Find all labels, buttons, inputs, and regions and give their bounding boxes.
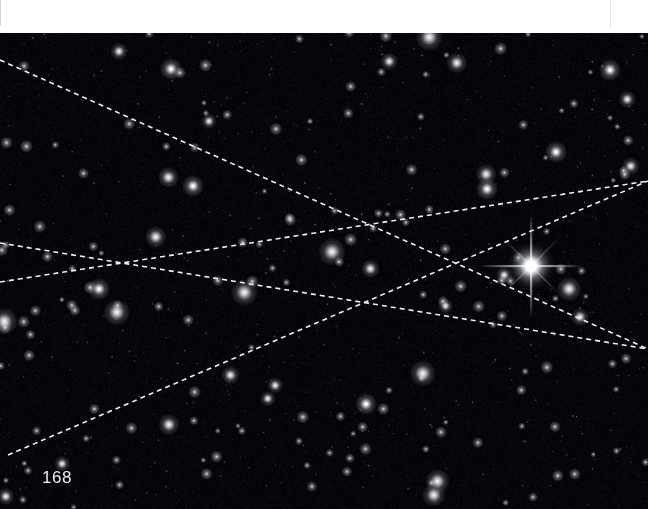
trail-b [0,243,648,349]
starfield-canvas [0,31,648,509]
plate-left-edge [0,31,4,509]
page-number: 168 [42,468,72,488]
margin-rule-right [610,0,611,28]
star-field-image: 168 [0,31,648,509]
page-canvas: 168 [0,0,648,509]
scan-top-margin [0,0,648,33]
trail-lines-overlay [0,31,648,509]
bright-star-icon [461,196,601,336]
plate-vignette [0,31,648,509]
trail-d [8,181,648,455]
margin-rule-left [0,0,1,26]
trail-c [0,181,648,282]
trail-a [0,60,648,349]
trail-lines-group [0,60,648,455]
